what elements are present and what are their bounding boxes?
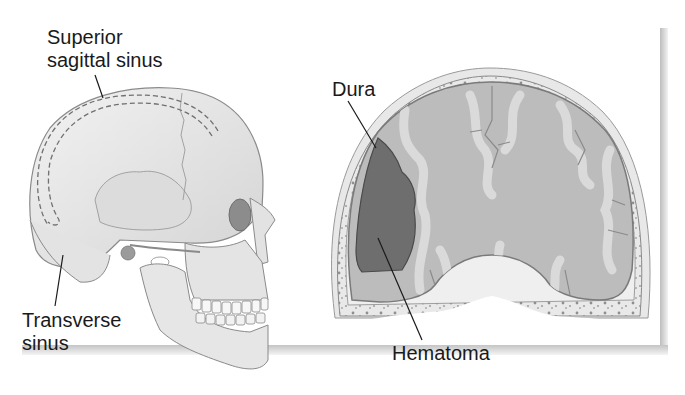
label-line: Transverse (22, 309, 121, 332)
label-dura: Dura (332, 78, 375, 101)
label-transverse-sinus: Transverse sinus (22, 309, 121, 355)
leader-superior-sagittal (95, 75, 103, 98)
label-line: Superior (47, 26, 163, 49)
label-line: sinus (22, 332, 121, 355)
label-line: sagittal sinus (47, 49, 163, 72)
coronal-section-illustration (330, 68, 655, 345)
label-superior-sagittal-sinus: Superior sagittal sinus (47, 26, 163, 72)
label-hematoma: Hematoma (392, 342, 490, 365)
